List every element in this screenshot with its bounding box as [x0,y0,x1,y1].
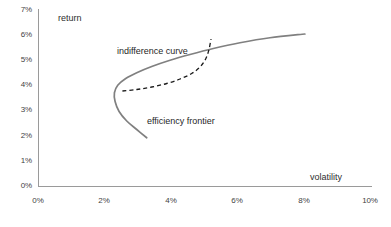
y-tick-5: 5% [10,55,32,64]
y-tick-0: 0% [10,181,32,190]
y-tick-6: 6% [10,30,32,39]
y-axis-title: return [58,13,82,23]
chart-plot-area [0,0,391,227]
x-tick-8: 8% [289,196,319,205]
x-tick-6: 6% [222,196,252,205]
portfolio-theory-chart: 7% 6% 5% 4% 3% 2% 1% 0% 0% 2% 4% 6% 8% 1… [0,0,391,227]
x-axis-title: volatility [310,172,342,182]
x-tick-2: 2% [89,196,119,205]
indifference-curve-label: indifference curve [117,46,188,56]
efficiency-frontier-label: efficiency frontier [147,116,215,126]
y-tick-4: 4% [10,80,32,89]
y-tick-1: 1% [10,156,32,165]
x-tick-10: 10% [355,196,385,205]
x-tick-4: 4% [156,196,186,205]
y-tick-2: 2% [10,131,32,140]
y-tick-3: 3% [10,105,32,114]
y-tick-7: 7% [10,5,32,14]
x-tick-0: 0% [23,196,53,205]
